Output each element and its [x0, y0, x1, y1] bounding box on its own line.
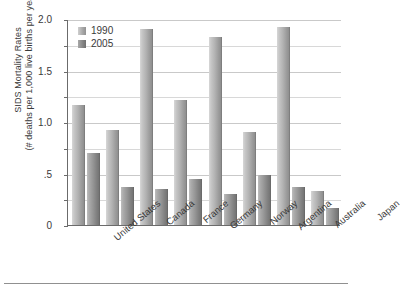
y-axis-tick-label: 2.0: [12, 15, 52, 25]
y-axis-tick-label: 1.5: [12, 67, 52, 77]
legend-label-2005: 2005: [91, 39, 113, 49]
bar-1990: [140, 29, 153, 225]
bar-group: [243, 19, 271, 225]
y-axis-tick-label: .5: [12, 170, 52, 180]
y-axis-tick-label: 1.0: [12, 118, 52, 128]
y-axis-tick-label: 0: [12, 221, 52, 231]
bar-1990: [106, 130, 119, 225]
bar-1990: [209, 37, 222, 225]
bar-group: [311, 19, 339, 225]
y-axis-tick-mark: [64, 226, 68, 227]
bar-group: [277, 19, 305, 225]
legend: 1990 2005: [78, 24, 138, 50]
bar-group: [209, 19, 237, 225]
bar-2005: [87, 153, 100, 225]
legend-swatch-2005-icon: [78, 40, 86, 48]
bar-group: [174, 19, 202, 225]
legend-label-1990: 1990: [91, 26, 113, 36]
legend-swatch-1990-icon: [78, 27, 86, 35]
bar-1990: [72, 105, 85, 226]
bar-1990: [277, 27, 290, 225]
legend-item-2005: 2005: [78, 37, 138, 50]
plot-area: 0.51.01.52.0 United StatesCanadaFranceGe…: [67, 20, 340, 226]
legend-item-1990: 1990: [78, 24, 138, 37]
x-axis-label-japan: Japan: [333, 198, 401, 258]
footer-divider: [4, 283, 348, 284]
bar-group: [140, 19, 168, 225]
